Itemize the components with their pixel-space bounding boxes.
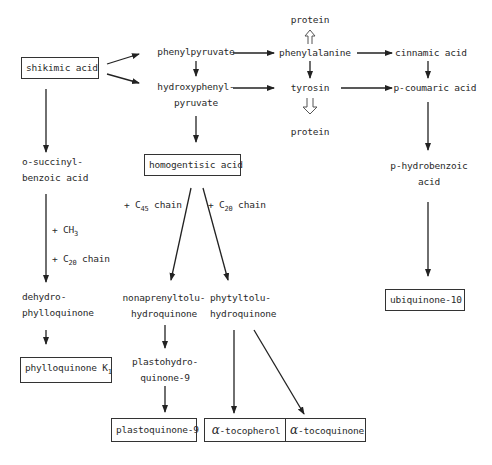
c20b-suffix: chain: [77, 253, 110, 264]
c20-subscript: 20: [225, 205, 233, 213]
node-plastohydroquinone-line1: plastohydro-: [120, 354, 210, 370]
node-o-succinylbenzoic-line2: benzoic acid: [22, 170, 92, 186]
c45-subscript: 45: [141, 205, 149, 213]
tocoquinone-label: -tocoquinone: [298, 425, 364, 436]
node-tyrosin: tyrosin: [282, 80, 338, 96]
node-cinnamic-acid: cinnamic acid: [393, 45, 469, 61]
node-hydroxyphenylpyruvate-line2: pyruvate: [145, 95, 247, 111]
c20b-subscript: 20: [69, 259, 77, 267]
phylloquinone-subscript: 1: [108, 368, 112, 376]
node-alpha-tocoquinone: α-tocoquinone: [285, 418, 366, 442]
c45-suffix: chain: [149, 199, 182, 210]
node-dehydrophylloquinone-line2: phylloquinone: [22, 305, 102, 321]
tocopherol-label: -tocopherol: [220, 425, 281, 436]
label-ch3: + CH3: [52, 222, 92, 242]
node-plastoquinone-9: plastoquinone-9: [111, 418, 197, 442]
node-nonaprenyl-line2: hydroquinone: [114, 306, 214, 322]
ch3-subscript: 3: [74, 230, 78, 238]
phylloquinone-label: phylloquinone K: [25, 362, 108, 373]
node-homogentisic-acid: homogentisic acid: [144, 154, 241, 176]
label-c20-chain: + C20 chain: [208, 197, 270, 217]
node-p-hydrobenzoic-line1: p-hydrobenzoic: [389, 158, 469, 174]
alpha-symbol: α: [290, 423, 298, 437]
c20b-prefix: + C: [52, 253, 69, 264]
node-plastohydroquinone-line2: quinone-9: [120, 370, 210, 386]
node-hydroxyphenylpyruvate-line1: hydroxyphenyl-: [145, 79, 247, 95]
node-phylloquinone-k1: phylloquinone K1: [20, 357, 112, 383]
label-c20-chain-left: + C20 chain: [52, 251, 114, 271]
node-phytyl-line2: hydroquinone: [210, 306, 290, 322]
node-protein-top: protein: [282, 12, 338, 28]
c45-prefix: + C: [124, 199, 141, 210]
node-protein-bottom: protein: [282, 124, 338, 140]
node-p-hydrobenzoic-line2: acid: [389, 174, 469, 190]
node-dehydrophylloquinone-line1: dehydro-: [22, 289, 102, 305]
node-o-succinylbenzoic-line1: o-succinyl-: [22, 154, 92, 170]
node-phytyl-line1: phytyltolu-: [210, 290, 290, 306]
node-alpha-tocopherol: α-tocopherol: [204, 418, 288, 442]
node-phenylalanine: phenylalanine: [275, 45, 355, 61]
node-ubiquinone-10: ubiquinone-10: [385, 289, 465, 311]
c20-prefix: + C: [208, 199, 225, 210]
alpha-symbol: α: [212, 423, 220, 437]
node-nonaprenyl-line1: nonaprenyltolu-: [114, 290, 214, 306]
node-phenylpyruvate: phenylpyruvate: [145, 44, 247, 60]
ch3-prefix: + CH: [52, 224, 74, 235]
node-shikimic-acid: shikimic acid: [21, 57, 99, 79]
label-c45-chain: + C45 chain: [124, 197, 186, 217]
c20-suffix: chain: [233, 199, 266, 210]
node-p-coumaric-acid: p-coumaric acid: [392, 80, 478, 96]
